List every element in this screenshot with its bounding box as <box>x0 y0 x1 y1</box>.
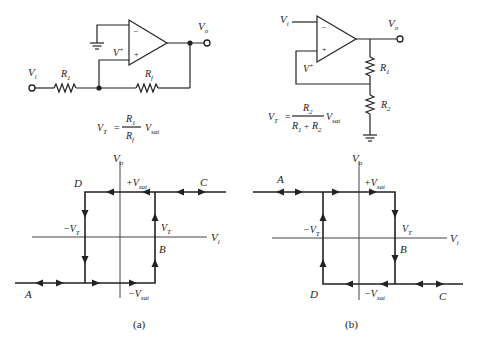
svg-text:Rf: Rf <box>125 130 135 144</box>
junction-node-a <box>96 85 101 90</box>
output-terminal-a <box>204 40 210 46</box>
point-c-label: C <box>200 176 208 188</box>
vplus-label-b: V+ <box>303 62 314 74</box>
schmitt-trigger-figure: − + V+ Vo Vi R1 Rf VT = R1 <box>0 0 483 349</box>
point-d-label: D <box>73 177 82 189</box>
threshold-formula-a: VT = R1 Rf Vsat <box>97 113 160 144</box>
svg-text:VT: VT <box>402 223 413 237</box>
hysteresis-graph-a: Vo Vi A B C D +Vsat −Vsat VT −VT <box>15 152 226 302</box>
svg-text:+Vsat: +Vsat <box>364 177 386 191</box>
svg-text:VT: VT <box>161 222 172 236</box>
output-terminal-b <box>397 36 403 42</box>
svg-text:−VT: −VT <box>303 224 321 238</box>
point-d-label: D <box>309 288 318 300</box>
r1-label-b: R1 <box>379 62 390 76</box>
svg-text:Vsat: Vsat <box>326 111 341 125</box>
opamp-a-plus: + <box>134 50 139 59</box>
point-c-label: C <box>439 290 447 302</box>
svg-text:−Vsat: −Vsat <box>364 288 386 302</box>
svg-text:R2: R2 <box>302 102 313 116</box>
opamp-b-plus: + <box>322 45 327 54</box>
ground-icon <box>90 43 104 49</box>
resistor-rf-a <box>136 84 158 92</box>
svg-text:=: = <box>285 111 291 122</box>
svg-text:Vo: Vo <box>113 152 124 167</box>
rf-label-a: Rf <box>144 68 154 82</box>
point-a-label: A <box>24 288 32 300</box>
point-b-label: B <box>400 243 407 255</box>
vi-label-a: Vi <box>28 66 37 81</box>
r1-label-a: R1 <box>60 68 71 82</box>
hysteresis-graph-b: Vo Vi A B C D +Vsat −Vsat VT −VT <box>253 152 463 302</box>
svg-text:R1: R1 <box>291 120 302 134</box>
svg-text:Vo: Vo <box>352 152 363 167</box>
svg-text:R2: R2 <box>311 120 322 134</box>
circuit-b: − + Vi V+ Vo R1 R2 <box>280 13 403 141</box>
svg-text:+: + <box>304 121 309 131</box>
svg-text:=: = <box>114 122 120 133</box>
svg-text:+Vsat: +Vsat <box>126 177 148 191</box>
svg-text:VT: VT <box>97 122 108 136</box>
vplus-label-a: V+ <box>113 46 124 58</box>
svg-text:Vsat: Vsat <box>145 122 160 136</box>
svg-text:Vi: Vi <box>450 232 459 247</box>
svg-text:R1: R1 <box>125 113 136 127</box>
resistor-r2-b <box>366 95 374 114</box>
svg-text:−VT: −VT <box>63 223 81 237</box>
circuit-a: − + V+ Vo Vi R1 Rf <box>28 20 210 92</box>
vo-label-a: Vo <box>198 20 209 35</box>
input-terminal-a <box>29 85 35 91</box>
point-b-label: B <box>159 243 166 255</box>
caption-a: (a) <box>133 318 146 331</box>
resistor-r1-a <box>54 84 76 92</box>
r2-label-b: R2 <box>380 99 391 113</box>
caption-b: (b) <box>345 318 358 331</box>
vo-label-b: Vo <box>388 17 399 32</box>
resistor-r1-b <box>366 57 374 76</box>
point-a-label: A <box>276 173 284 185</box>
threshold-formula-b: VT = R2 R1 + R2 Vsat <box>268 102 341 134</box>
svg-text:−Vsat: −Vsat <box>128 288 150 302</box>
svg-text:VT: VT <box>268 111 279 125</box>
vi-label-b: Vi <box>280 13 289 28</box>
opamp-b-minus: − <box>321 22 326 32</box>
opamp-a-minus: − <box>133 26 138 36</box>
ground-icon <box>363 135 377 141</box>
svg-text:Vi: Vi <box>211 231 220 246</box>
